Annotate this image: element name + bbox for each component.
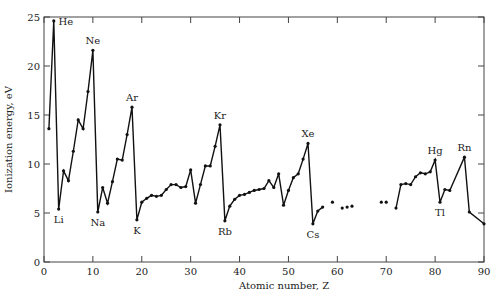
data-point: [52, 19, 55, 22]
data-point: [96, 210, 99, 213]
element-label: Na: [90, 217, 105, 228]
data-point: [150, 194, 153, 197]
element-label: Ar: [125, 92, 138, 103]
data-point: [385, 201, 388, 204]
data-point: [316, 209, 319, 212]
data-point: [223, 219, 226, 222]
data-point: [438, 201, 441, 204]
x-tick-label: 20: [135, 266, 148, 277]
element-label: Kr: [214, 110, 226, 121]
data-point: [179, 186, 182, 189]
data-point: [209, 164, 212, 167]
data-point: [253, 189, 256, 192]
x-tick-label: 10: [87, 266, 100, 277]
ionization-energy-chart: 01020304050607080900510152025Atomic numb…: [0, 0, 502, 298]
y-tick-label: 15: [27, 110, 40, 121]
x-tick-label: 70: [380, 266, 393, 277]
element-label: K: [133, 225, 141, 236]
data-point: [287, 189, 290, 192]
y-tick-label: 0: [34, 257, 40, 268]
data-point: [321, 206, 324, 209]
element-label: Xe: [301, 128, 314, 139]
y-tick-label: 10: [27, 159, 40, 170]
data-point: [429, 170, 432, 173]
element-label: Hg: [428, 145, 444, 156]
data-point: [331, 201, 334, 204]
data-point: [130, 106, 133, 109]
data-point: [346, 206, 349, 209]
data-point: [57, 207, 60, 210]
x-tick-label: 80: [429, 266, 442, 277]
data-point: [297, 172, 300, 175]
data-point: [399, 183, 402, 186]
data-point: [233, 198, 236, 201]
data-point: [165, 188, 168, 191]
x-tick-label: 30: [184, 266, 197, 277]
data-point: [116, 158, 119, 161]
data-point: [194, 202, 197, 205]
data-point: [272, 186, 275, 189]
data-point: [214, 145, 217, 148]
x-tick-label: 0: [41, 266, 47, 277]
data-point: [424, 172, 427, 175]
data-point: [218, 123, 221, 126]
data-point: [47, 127, 50, 130]
element-label: Tl: [435, 207, 445, 218]
x-tick-label: 60: [331, 266, 344, 277]
data-point: [463, 156, 466, 159]
data-point: [77, 118, 80, 121]
data-point: [86, 90, 89, 93]
plot-frame: [44, 17, 484, 262]
data-point: [184, 185, 187, 188]
data-point: [121, 158, 124, 161]
element-label: Cs: [306, 229, 319, 240]
data-point: [106, 202, 109, 205]
data-point: [135, 218, 138, 221]
x-tick-label: 50: [282, 266, 295, 277]
data-point: [394, 207, 397, 210]
data-point: [160, 194, 163, 197]
data-point: [228, 205, 231, 208]
data-point: [482, 222, 485, 225]
x-tick-label: 40: [233, 266, 246, 277]
data-point: [126, 133, 129, 136]
data-point: [62, 169, 65, 172]
element-label: He: [58, 16, 73, 27]
data-point: [199, 183, 202, 186]
element-label: Ne: [86, 35, 101, 46]
y-tick-label: 25: [27, 12, 40, 23]
data-point: [282, 204, 285, 207]
data-point: [409, 183, 412, 186]
data-point: [341, 207, 344, 210]
data-point: [174, 183, 177, 186]
data-point: [262, 187, 265, 190]
x-axis-label: Atomic number, Z: [238, 280, 329, 291]
data-point: [292, 176, 295, 179]
data-point: [258, 188, 261, 191]
data-point: [443, 188, 446, 191]
data-point: [170, 183, 173, 186]
data-point: [306, 142, 309, 145]
data-point: [380, 201, 383, 204]
data-point: [91, 49, 94, 52]
x-tick-label: 90: [478, 266, 491, 277]
element-label: Rb: [218, 226, 232, 237]
data-point: [434, 158, 437, 161]
data-point: [468, 210, 471, 213]
data-line: [49, 21, 323, 224]
y-axis-label: Ionization energy, eV: [3, 85, 14, 193]
data-point: [155, 195, 158, 198]
data-point: [404, 182, 407, 185]
data-point: [140, 201, 143, 204]
data-point: [189, 168, 192, 171]
data-point: [145, 197, 148, 200]
y-tick-label: 5: [34, 208, 40, 219]
element-label: Rn: [457, 142, 472, 153]
data-point: [243, 193, 246, 196]
data-point: [419, 171, 422, 174]
data-point: [302, 158, 305, 161]
data-point: [101, 186, 104, 189]
data-point: [72, 150, 75, 153]
data-point: [277, 172, 280, 175]
data-point: [111, 180, 114, 183]
